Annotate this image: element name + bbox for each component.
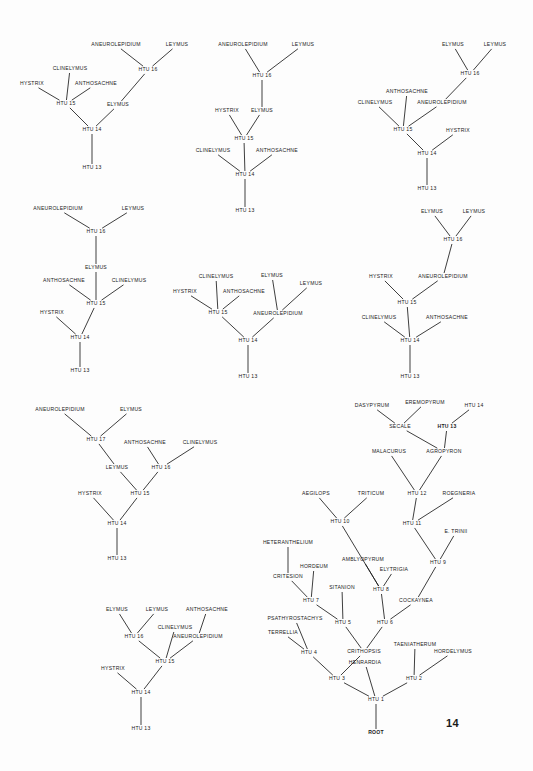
tree-branch: [313, 657, 332, 675]
tree-node-label: CRITHOPSIS: [347, 648, 381, 654]
tree-node-label: HTU 14: [82, 126, 101, 132]
tree-node-label: CLINELYMUS: [199, 273, 234, 279]
tree-node-label: HETERANTHELIUM: [263, 539, 313, 545]
tree-branch: [292, 581, 307, 597]
tree-branch: [99, 444, 114, 464]
tree-node-label: ANEUROLEPIDIUM: [91, 41, 140, 47]
page-number: 14: [446, 717, 459, 729]
tree-branch: [94, 498, 113, 520]
tree-branch: [153, 49, 172, 66]
tree-node-group: ANEUROLEPIDIUMELYMUSHTU 17ANTHOSACHNECLI…: [35, 406, 217, 561]
tree-node-label: AGROPYRON: [426, 448, 461, 454]
tree-node-label: HTU 12: [407, 490, 426, 496]
tree-node-group: ELYMUSLEYMUSANTHOSACHNECLINELYMUSHTU 16A…: [101, 606, 228, 731]
tree-node-label: AEGILOPS: [302, 490, 330, 496]
tree-branch: [414, 649, 415, 674]
tree-branch: [446, 78, 466, 99]
tree-node-label: ANEUROLEPIDIUM: [418, 273, 467, 279]
tree-node-label: ELYMUS: [120, 406, 142, 412]
tree-node-label: HYSTRIX: [369, 273, 393, 279]
tree-branch: [418, 567, 435, 596]
tree-branch: [230, 115, 242, 134]
tree-branch: [320, 498, 337, 518]
tree-branch: [82, 308, 94, 333]
tree-branch: [391, 605, 411, 619]
tree-node-label: HTU 13: [417, 185, 436, 191]
tree-node-label: LEYMUS: [106, 464, 129, 470]
tree-node-label: HTU 16: [124, 633, 143, 639]
tree-node-label: LEYMUS: [122, 205, 145, 211]
tree-node-label: ELYMUS: [442, 41, 464, 47]
tree-node-label: CLINELYMUS: [183, 439, 218, 445]
tree-branch: [404, 407, 420, 423]
tree-branch: [385, 281, 403, 299]
tree-node-label: ANTHOSACHNE: [124, 439, 166, 445]
tree-node-label: ANEUROLEPIDIUM: [218, 41, 267, 47]
tree-branch: [413, 498, 417, 519]
tree-node-label: HTU 13: [238, 373, 257, 379]
tree-node-label: ELYTRIGIA: [380, 566, 409, 572]
tree-node-label: HTU 14: [131, 689, 150, 695]
tree-branch: [413, 281, 438, 299]
tree-node-label: LEYMUS: [300, 280, 323, 286]
tree-branch: [384, 574, 391, 585]
tree-branch: [199, 614, 205, 632]
tree-node-label: E. TRINII: [444, 528, 467, 534]
tree-node-label: HYSTRIX: [78, 490, 102, 496]
tree-node-label: ANEUROLEPIDIUM: [33, 205, 82, 211]
tree-branch: [101, 414, 126, 436]
tree-node-label: HTU 13: [400, 373, 419, 379]
tree-node-label: LEYMUS: [484, 41, 507, 47]
tree-branch: [216, 281, 218, 308]
tree-node-group: ANEUROLEPIDIUMLEYMUSHTU 16ELYMUSANTHOSAC…: [33, 205, 146, 373]
tree-branch: [218, 155, 239, 171]
tree-node-label: ELYMUS: [261, 272, 283, 278]
tree-branch: [418, 498, 452, 520]
tree-node-label: ANTHOSACHNE: [256, 147, 298, 153]
tree-node-label: ROOT: [368, 729, 384, 735]
tree-node-label: ELYMUS: [251, 107, 273, 113]
tree-node-label: ANEUROLEPIDIUM: [35, 406, 84, 412]
tree-branch: [407, 134, 423, 150]
tree-node-label: HTU 13: [82, 164, 101, 170]
tree-node-group: DASYPYRUMEREMOPYRUMHTU 14SECALEHTU 13MAL…: [263, 399, 484, 735]
tree-node-label: HTU 13: [70, 367, 89, 373]
tree-node-label: ANTHOSACHNE: [426, 314, 468, 320]
tree-node-label: HTU 2: [406, 675, 422, 681]
tree-branch: [407, 431, 437, 448]
tree-branch: [415, 528, 435, 558]
tree-node-label: HTU 4: [301, 649, 317, 655]
tree-node-label: ANTHOSACHNE: [386, 88, 428, 94]
tree-node-label: ROEGNERIA: [443, 490, 476, 496]
tree-node-label: CLINELYMUS: [362, 314, 397, 320]
tree-node-label: MALACURUS: [372, 448, 407, 454]
tree-node-label: HTU 3: [329, 675, 345, 681]
tree-node-label: ANTHOSACHNE: [186, 606, 228, 612]
tree-node-label: HTU 15: [397, 299, 416, 305]
tree-edge-group: [57, 213, 127, 367]
tree-branch: [57, 317, 76, 334]
tree-node-label: HTU 15: [208, 309, 227, 315]
tree-branch: [253, 318, 274, 337]
tree-branch: [403, 96, 406, 125]
tree-branch: [120, 498, 137, 520]
tree-branch: [70, 285, 91, 300]
tree-node-label: LEYMUS: [146, 606, 169, 612]
tree-branch: [121, 49, 143, 66]
tree-branch: [102, 285, 123, 300]
tree-branch: [435, 216, 450, 236]
tree-node-label: ANEUROLEPIDIUM: [417, 99, 466, 105]
tree-node-label: HTU 14: [107, 520, 126, 526]
tree-branch: [416, 322, 440, 337]
tree-branch: [222, 317, 243, 337]
tree-branch: [223, 296, 239, 309]
tree-node-label: HTU 6: [377, 619, 393, 625]
tree-node-label: HTU 15: [155, 658, 174, 664]
tree-branch: [345, 498, 367, 518]
tree-branch: [250, 155, 271, 171]
tree-node-label: TRITICUM: [358, 490, 384, 496]
tree-branch: [367, 627, 382, 648]
tree-branch: [247, 115, 260, 134]
tree-node-group: ELYMUSLEYMUSHTU 16HYSTRIXANEUROLEPIDIUMH…: [362, 208, 486, 379]
tree-node-label: HTU 13: [437, 423, 456, 429]
